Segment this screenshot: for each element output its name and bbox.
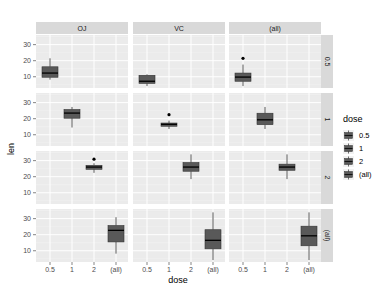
x-tick-label: (all): [110, 266, 122, 274]
panel-2-(all): [229, 151, 321, 204]
box: [139, 75, 155, 83]
legend-item: 0.5: [343, 130, 369, 141]
y-tick-label: 10: [23, 73, 31, 80]
legend-label: 1: [359, 144, 363, 153]
x-axis-title: dose: [168, 275, 188, 285]
legend-label: 2: [359, 157, 363, 166]
y-tick-label: 20: [23, 57, 31, 64]
y-tick-label: 30: [23, 41, 31, 48]
row-strip-label: 2: [324, 176, 331, 180]
panel-2-VC: [133, 151, 225, 204]
y-axis: 102030102030102030102030: [23, 41, 36, 254]
y-tick-label: 10: [23, 131, 31, 138]
y-tick-label: 30: [23, 215, 31, 222]
y-tick-label: 20: [23, 173, 31, 180]
row-strip-label: 0.5: [324, 57, 331, 67]
y-tick-label: 30: [23, 157, 31, 164]
outlier-point: [167, 113, 170, 116]
x-tick-label: 1: [167, 266, 171, 273]
x-tick-label: 0.5: [238, 266, 248, 273]
column-strip-label: VC: [174, 25, 184, 32]
panel-1-(all): [229, 93, 321, 146]
box: [257, 113, 273, 124]
panel-1-OJ: [36, 93, 128, 146]
legend-items: 0.512(all): [343, 130, 372, 180]
x-tick-label: 2: [92, 266, 96, 273]
legend-item: (all): [343, 169, 372, 180]
legend-item: 1: [343, 143, 363, 154]
panel-1-VC: [133, 93, 225, 146]
legend-title: dose: [343, 114, 363, 124]
column-strip-label: (all): [269, 25, 281, 33]
y-tick-label: 20: [23, 231, 31, 238]
outlier-point: [92, 158, 95, 161]
panel-2-OJ: [36, 151, 128, 204]
x-tick-label: 1: [263, 266, 267, 273]
x-axis: 0.512(all)0.512(all)0.512(all): [45, 262, 315, 274]
box: [64, 110, 80, 119]
legend-label: 0.5: [359, 131, 369, 140]
legend-label: (all): [359, 170, 372, 179]
row-strip-label: (all): [323, 230, 331, 242]
x-tick-label: 1: [70, 266, 74, 273]
box: [108, 226, 124, 242]
panels-layer: [36, 35, 321, 262]
box: [42, 67, 58, 77]
row-strip-label: 1: [324, 118, 331, 122]
y-tick-label: 20: [23, 115, 31, 122]
x-tick-label: (all): [207, 266, 219, 274]
x-tick-label: 2: [189, 266, 193, 273]
y-tick-label: 30: [23, 99, 31, 106]
faceted-boxplot-chart: OJVC(all) 0.512(all) 1020301020301020301…: [0, 0, 384, 302]
x-tick-label: 0.5: [142, 266, 152, 273]
legend-item: 2: [343, 156, 363, 167]
column-strips: OJVC(all): [36, 22, 321, 34]
y-tick-label: 10: [23, 189, 31, 196]
x-tick-label: 2: [285, 266, 289, 273]
legend: dose 0.512(all): [343, 114, 372, 180]
column-strip-label: OJ: [78, 25, 87, 32]
y-tick-label: 10: [23, 247, 31, 254]
y-axis-title: len: [6, 143, 16, 155]
x-tick-label: 0.5: [45, 266, 55, 273]
outlier-point: [241, 57, 244, 60]
box: [205, 230, 221, 249]
x-tick-label: (all): [303, 266, 315, 274]
row-strips: 0.512(all): [321, 35, 333, 262]
